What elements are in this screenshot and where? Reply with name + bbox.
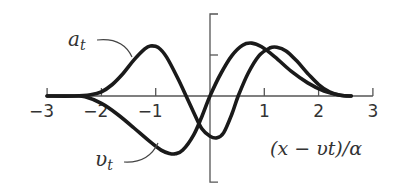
label-a-main: a: [68, 27, 80, 51]
series-label-v-t: υt: [95, 147, 113, 173]
x-tick-label: 2: [313, 101, 324, 121]
x-tick-label: −1: [138, 101, 163, 121]
x-tick-label: 1: [259, 101, 270, 121]
label-v-main: υ: [95, 147, 107, 171]
label-a-sub: t: [80, 37, 86, 53]
series-label-a-t: at: [68, 27, 86, 53]
x-tick-label: −3: [29, 101, 54, 121]
y-axis: [210, 14, 218, 182]
x-tick-label: 3: [367, 101, 378, 121]
x-axis-label: (x − υt)/α: [270, 137, 362, 159]
chart: −3−2−1123 at υt (x − υt)/α: [0, 0, 410, 191]
label-v-sub: t: [107, 157, 113, 173]
leader-line-a-t: [97, 40, 132, 57]
